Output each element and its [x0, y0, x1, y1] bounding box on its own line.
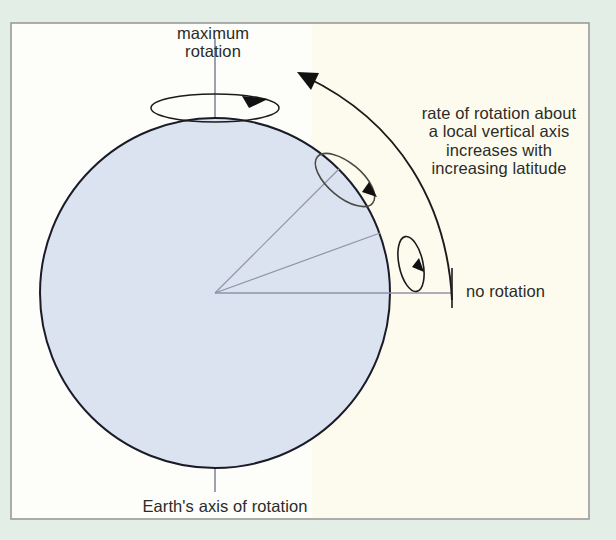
label-maximum-rotation: maximum rotation — [118, 24, 308, 61]
figure-stage: maximum rotation rate of rotation about … — [0, 0, 616, 540]
earth-rotation-diagram — [0, 0, 616, 540]
label-rate-of-rotation: rate of rotation about a local vertical … — [390, 104, 608, 178]
label-no-rotation: no rotation — [466, 282, 545, 300]
label-earth-axis: Earth's axis of rotation — [60, 497, 390, 515]
